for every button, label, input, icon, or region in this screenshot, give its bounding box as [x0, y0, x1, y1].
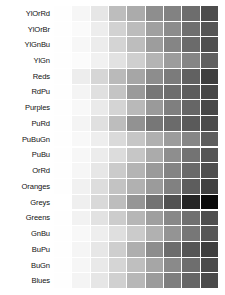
- colormap-swatch: [54, 211, 71, 226]
- colormap-swatch: [182, 6, 199, 21]
- colormap-swatch: [182, 195, 199, 210]
- colormap-swatch: [109, 37, 126, 52]
- colormap-swatch: [164, 37, 181, 52]
- colormap-name-label: Blues: [0, 276, 54, 285]
- colormap-swatch: [127, 273, 144, 288]
- colormap-row: YlGn: [0, 53, 218, 68]
- colormap-swatch: [201, 226, 218, 241]
- colormap-swatch: [54, 69, 71, 84]
- colormap-swatch: [109, 163, 126, 178]
- colormap-swatch: [201, 242, 218, 257]
- colormap-swatch-strip: [54, 242, 218, 257]
- colormap-swatch: [146, 163, 163, 178]
- colormap-swatch: [109, 211, 126, 226]
- colormap-swatch: [54, 6, 71, 21]
- colormap-swatch: [201, 69, 218, 84]
- colormap-swatch: [72, 85, 89, 100]
- colormap-swatch: [201, 179, 218, 194]
- colormap-name-label: BuPu: [0, 245, 54, 254]
- colormap-swatch: [54, 132, 71, 147]
- colormap-swatch: [109, 53, 126, 68]
- colormap-swatch: [164, 242, 181, 257]
- colormap-row: Oranges: [0, 179, 218, 194]
- colormap-swatch-strip: [54, 226, 218, 241]
- colormap-swatch: [164, 53, 181, 68]
- colormap-swatch: [201, 85, 218, 100]
- colormap-swatch: [201, 100, 218, 115]
- colormap-swatch: [182, 53, 199, 68]
- colormap-row: YlGnBu: [0, 37, 218, 52]
- colormap-swatch: [72, 226, 89, 241]
- colormap-swatch: [127, 242, 144, 257]
- colormap-swatch: [201, 6, 218, 21]
- colormap-swatch: [146, 242, 163, 257]
- colormap-swatch: [182, 132, 199, 147]
- colormap-name-label: BuGn: [0, 261, 54, 270]
- colormap-swatch: [54, 179, 71, 194]
- colormap-swatch: [72, 148, 89, 163]
- colormap-swatch: [127, 37, 144, 52]
- colormap-swatch: [182, 179, 199, 194]
- colormap-swatch: [54, 100, 71, 115]
- colormap-row: Purples: [0, 100, 218, 115]
- colormap-swatch: [127, 53, 144, 68]
- colormap-swatch: [164, 179, 181, 194]
- colormap-swatch: [164, 100, 181, 115]
- colormap-swatch: [72, 100, 89, 115]
- colormap-swatch: [201, 163, 218, 178]
- colormap-swatch: [201, 211, 218, 226]
- colormap-swatch: [72, 37, 89, 52]
- colormap-swatch-strip: [54, 6, 218, 21]
- colormap-swatch: [182, 148, 199, 163]
- colormap-row: YlOrRd: [0, 6, 218, 21]
- colormap-swatch: [72, 273, 89, 288]
- colormap-swatch: [91, 116, 108, 131]
- colormap-name-label: YlOrRd: [0, 9, 54, 18]
- colormap-swatch: [72, 195, 89, 210]
- colormap-swatch: [109, 226, 126, 241]
- colormap-swatch: [164, 69, 181, 84]
- colormap-row: Blues: [0, 273, 218, 288]
- colormap-swatch: [146, 37, 163, 52]
- colormap-swatch: [146, 69, 163, 84]
- colormap-swatch-strip: [54, 100, 218, 115]
- colormap-swatch-strip: [54, 258, 218, 273]
- colormap-row: Greys: [0, 195, 218, 210]
- colormap-swatch: [72, 242, 89, 257]
- colormap-swatch: [182, 69, 199, 84]
- colormap-swatch: [54, 148, 71, 163]
- colormap-swatch: [54, 242, 71, 257]
- colormap-name-label: PuBu: [0, 150, 54, 159]
- colormap-swatch-strip: [54, 116, 218, 131]
- colormap-swatch-strip: [54, 148, 218, 163]
- colormap-row: GnBu: [0, 226, 218, 241]
- colormap-name-label: PuBuGn: [0, 135, 54, 144]
- colormap-swatch-strip: [54, 22, 218, 37]
- colormap-swatch: [146, 273, 163, 288]
- colormap-swatch: [164, 148, 181, 163]
- colormap-swatch: [182, 37, 199, 52]
- colormap-swatch: [201, 22, 218, 37]
- colormap-row: BuPu: [0, 242, 218, 257]
- colormap-row: BuGn: [0, 258, 218, 273]
- colormap-swatch-strip: [54, 37, 218, 52]
- colormap-swatch: [109, 242, 126, 257]
- colormap-swatch: [72, 22, 89, 37]
- colormap-swatch: [54, 195, 71, 210]
- colormap-swatch: [127, 116, 144, 131]
- colormap-swatch: [72, 69, 89, 84]
- colormap-swatch: [201, 258, 218, 273]
- colormap-swatch: [127, 132, 144, 147]
- colormap-name-label: YlGn: [0, 56, 54, 65]
- colormap-swatch: [127, 163, 144, 178]
- colormap-swatch: [91, 163, 108, 178]
- colormap-swatch-strip: [54, 53, 218, 68]
- colormap-swatch: [91, 195, 108, 210]
- colormap-row: PuBuGn: [0, 132, 218, 147]
- colormap-name-label: Greens: [0, 213, 54, 222]
- colormap-swatch: [54, 22, 71, 37]
- colormap-row: OrRd: [0, 163, 218, 178]
- colormap-swatch: [91, 226, 108, 241]
- colormap-swatch: [91, 132, 108, 147]
- colormap-name-label: YlGnBu: [0, 40, 54, 49]
